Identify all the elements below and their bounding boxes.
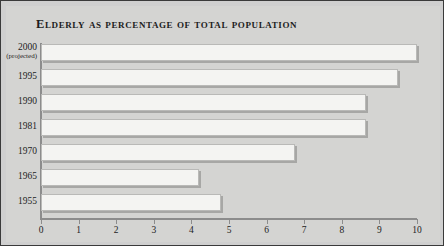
- bar-1981: [41, 119, 366, 136]
- x-tick-4: [191, 219, 192, 224]
- y-axis-label-1995: 1995: [18, 72, 37, 81]
- x-tick-label-5: 5: [227, 225, 232, 235]
- bar-1995: [41, 69, 398, 86]
- plot-area: [41, 43, 417, 218]
- x-tick-5: [229, 219, 230, 224]
- y-axis-label-1990: 1990: [18, 97, 37, 106]
- bar-1990: [41, 94, 366, 111]
- x-tick-2: [116, 219, 117, 224]
- x-tick-label-4: 4: [189, 225, 194, 235]
- y-axis-label-1970: 1970: [18, 147, 37, 156]
- bar-1955: [41, 194, 221, 211]
- x-tick-7: [304, 219, 305, 224]
- x-tick-label-1: 1: [76, 225, 81, 235]
- chart-outer-frame: Elderly as percentage of total populatio…: [0, 0, 444, 246]
- x-tick-label-8: 8: [339, 225, 344, 235]
- chart-panel: Elderly as percentage of total populatio…: [6, 6, 440, 242]
- y-axis-label-1965: 1965: [18, 172, 37, 181]
- x-tick-label-9: 9: [377, 225, 382, 235]
- bar-2000: [41, 44, 417, 61]
- x-tick-3: [154, 219, 155, 224]
- x-axis-tick-group: 012345678910: [41, 219, 418, 243]
- bar-1970: [41, 144, 295, 161]
- x-tick-label-3: 3: [151, 225, 156, 235]
- x-tick-6: [267, 219, 268, 224]
- y-axis-label-group: 2000(projected)199519901981197019651955: [6, 43, 37, 219]
- y-axis-label-1955: 1955: [18, 197, 37, 206]
- x-tick-9: [379, 219, 380, 224]
- y-axis-label-1981: 1981: [18, 122, 37, 131]
- x-tick-10: [417, 219, 418, 224]
- x-tick-label-7: 7: [302, 225, 307, 235]
- bar-1965: [41, 169, 199, 186]
- x-tick-label-0: 0: [39, 225, 44, 235]
- x-tick-1: [79, 219, 80, 224]
- x-tick-label-6: 6: [264, 225, 269, 235]
- y-axis-sublabel-2000: (projected): [6, 52, 37, 60]
- chart-title: Elderly as percentage of total populatio…: [36, 17, 297, 32]
- x-tick-0: [41, 219, 42, 224]
- x-tick-8: [342, 219, 343, 224]
- x-tick-label-2: 2: [114, 225, 119, 235]
- chart-screenshot: Elderly as percentage of total populatio…: [0, 0, 444, 246]
- x-tick-label-10: 10: [412, 225, 422, 235]
- y-axis-label-2000: 2000(projected): [6, 43, 37, 60]
